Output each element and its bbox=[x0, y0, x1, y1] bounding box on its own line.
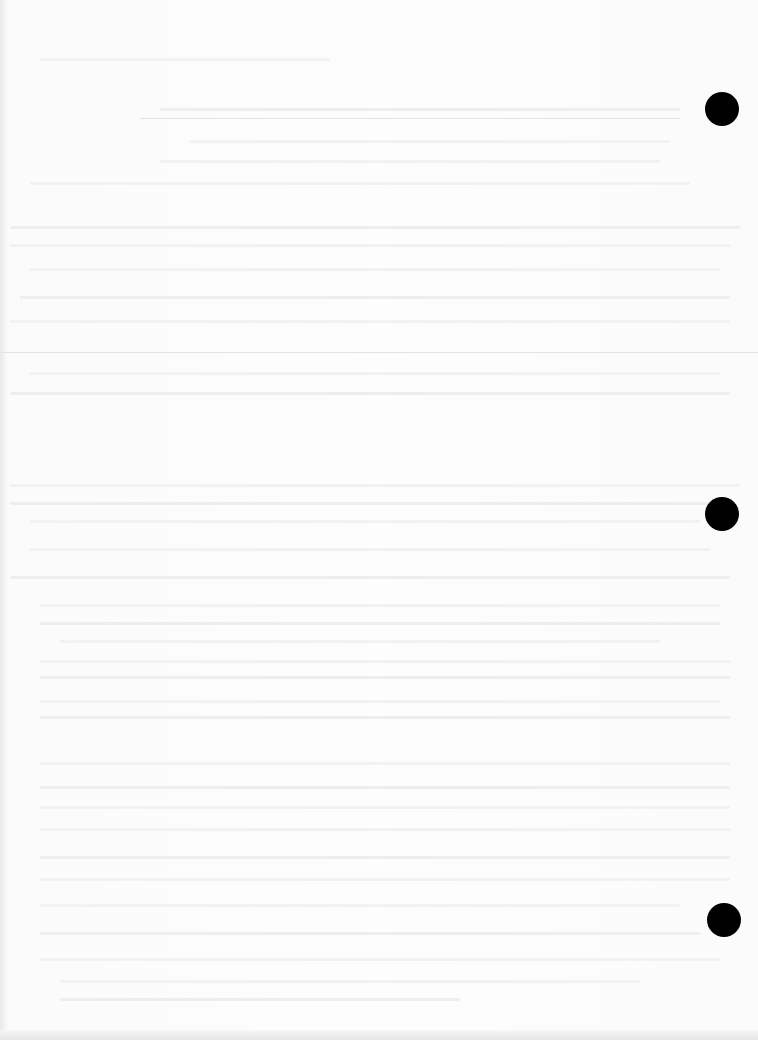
scan-edge-shadow bbox=[0, 1030, 758, 1040]
punch-hole-top bbox=[705, 92, 739, 126]
punch-hole-middle bbox=[705, 497, 739, 531]
scanned-page bbox=[0, 0, 758, 1040]
punch-hole-bottom bbox=[707, 903, 741, 937]
